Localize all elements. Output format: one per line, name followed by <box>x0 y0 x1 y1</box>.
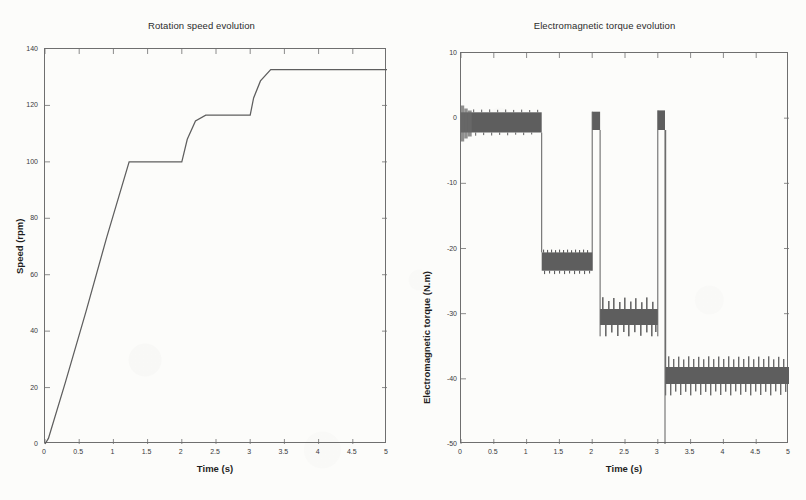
plot-area-electromagnetic-torque <box>460 52 788 443</box>
tick-marks-y <box>461 118 789 379</box>
x-tick-r4p5: 4.5 <box>750 448 760 455</box>
x-tick-r1: 1 <box>524 448 528 455</box>
y-axis-title-torque: Electromagnetic torque (N.m) <box>421 271 432 404</box>
plot-area-rotation-speed <box>44 48 386 443</box>
x-tick-r5: 5 <box>786 448 790 455</box>
x-axis-title-time-left: Time (s) <box>44 463 386 474</box>
torque-ripple-band-4 <box>600 309 658 325</box>
torque-ripple-band-3 <box>592 112 600 130</box>
x-tick-r0: 0 <box>458 448 462 455</box>
torque-startup-flare <box>461 106 472 142</box>
x-tick-4p5: 4.5 <box>347 448 357 455</box>
plot-svg-electromagnetic-torque <box>461 53 789 444</box>
y-tick-20: 20 <box>18 383 38 390</box>
y-tick-10: 10 <box>435 49 457 56</box>
y-axis-title-speed: Speed (rpm) <box>14 219 25 274</box>
x-tick-r3: 3 <box>655 448 659 455</box>
x-tick-3p5: 3.5 <box>279 448 289 455</box>
torque-transitions <box>542 110 666 444</box>
y-tick-120: 120 <box>18 101 38 108</box>
plot-svg-rotation-speed <box>45 49 387 444</box>
chart-title-rotation-speed: Rotation speed evolution <box>0 20 403 31</box>
x-tick-r2p5: 2.5 <box>619 448 629 455</box>
y-tick-140: 140 <box>18 45 38 52</box>
x-tick-3: 3 <box>247 448 251 455</box>
x-tick-2p5: 2.5 <box>210 448 220 455</box>
torque-ripple-band-6 <box>666 367 789 384</box>
x-tick-0p5: 0.5 <box>73 448 83 455</box>
x-tick-r2: 2 <box>589 448 593 455</box>
y-tick-0: 0 <box>18 440 38 447</box>
x-tick-0: 0 <box>42 448 46 455</box>
torque-ripple-band-5 <box>658 110 665 130</box>
y-tick-m30: -30 <box>435 309 457 316</box>
chart-title-electromagnetic-torque: Electromagnetic torque evolution <box>403 20 806 31</box>
y-tick-40: 40 <box>18 327 38 334</box>
x-tick-5: 5 <box>384 448 388 455</box>
torque-ripple-band-1 <box>461 112 542 132</box>
chart-rotation-speed: Rotation speed evolution Speed (rpm) 140… <box>0 14 403 484</box>
y-tick-m40: -40 <box>435 374 457 381</box>
x-tick-1p5: 1.5 <box>142 448 152 455</box>
figure-page: Rotation speed evolution Speed (rpm) 140… <box>0 0 806 500</box>
x-tick-r0p5: 0.5 <box>488 448 498 455</box>
x-tick-r1p5: 1.5 <box>554 448 564 455</box>
y-tick-60: 60 <box>18 270 38 277</box>
x-tick-4: 4 <box>316 448 320 455</box>
x-tick-r4: 4 <box>720 448 724 455</box>
tick-marks-y <box>45 105 387 387</box>
chart-electromagnetic-torque: Electromagnetic torque evolution Electro… <box>403 14 806 484</box>
x-tick-r3p5: 3.5 <box>685 448 695 455</box>
y-tick-0r: 0 <box>435 114 457 121</box>
torque-ripple-band-2 <box>542 252 593 270</box>
x-tick-1: 1 <box>110 448 114 455</box>
x-tick-2: 2 <box>179 448 183 455</box>
speed-curve <box>45 70 387 444</box>
tick-marks-x <box>45 49 353 444</box>
x-axis-title-time-right: Time (s) <box>460 463 788 474</box>
y-tick-80: 80 <box>18 214 38 221</box>
y-tick-m20: -20 <box>435 244 457 251</box>
y-tick-m50: -50 <box>435 440 457 447</box>
y-tick-m10: -10 <box>435 179 457 186</box>
y-tick-100: 100 <box>18 157 38 164</box>
